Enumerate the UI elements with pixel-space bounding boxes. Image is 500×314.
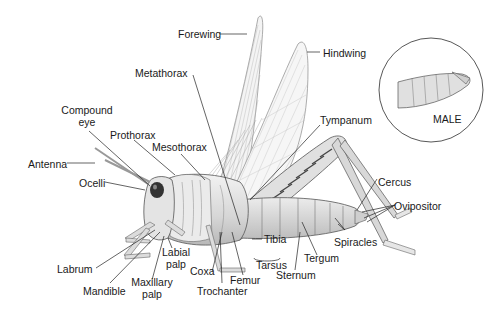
label-mesothorax: Mesothorax	[152, 141, 207, 153]
label-mandible: Mandible	[83, 285, 126, 297]
grasshopper-diagram: Forewing Hindwing Metathorax Compound ey…	[0, 0, 500, 314]
label-antenna: Antenna	[28, 158, 67, 170]
thorax	[165, 174, 248, 245]
label-prothorax: Prothorax	[110, 129, 156, 141]
label-coxa: Coxa	[190, 265, 215, 277]
label-maxillary-palp-line2: palp	[125, 288, 179, 300]
label-metathorax: Metathorax	[135, 67, 188, 79]
label-cercus: Cercus	[378, 176, 411, 188]
label-maxillary-palp-line1: Maxillary	[125, 276, 179, 288]
label-ocelli: Ocelli	[79, 177, 105, 189]
label-forewing: Forewing	[178, 28, 221, 40]
label-trochanter: Trochanter	[197, 285, 247, 297]
label-tergum: Tergum	[304, 252, 339, 264]
label-sternum: Sternum	[276, 269, 316, 281]
label-spiracles: Spiracles	[334, 236, 377, 248]
compound-eye	[150, 182, 164, 198]
label-tibia: Tibia	[264, 233, 286, 245]
label-hindwing: Hindwing	[323, 47, 366, 59]
label-compound-eye-line1: Compound	[60, 104, 114, 116]
abdomen	[240, 197, 368, 239]
label-male-inset: MALE	[433, 113, 462, 125]
label-labial-palp-line1: Labial	[156, 246, 196, 258]
label-compound-eye-line2: eye	[60, 116, 114, 128]
label-labrum: Labrum	[57, 263, 93, 275]
male-inset	[379, 38, 483, 142]
label-ovipositor: Ovipositor	[394, 200, 441, 212]
head	[95, 148, 174, 240]
label-tympanum: Tympanum	[320, 114, 372, 126]
